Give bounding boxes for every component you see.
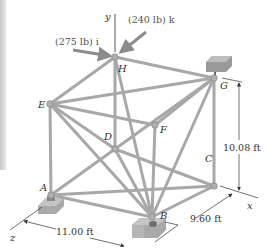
- z-axis: [10, 207, 42, 230]
- truss-members: [50, 57, 214, 217]
- node-E: [47, 101, 53, 107]
- node-C: [211, 183, 217, 189]
- height-dim-label: 10.08 ft: [223, 142, 261, 153]
- node-F: [152, 122, 158, 128]
- label-H: H: [117, 63, 127, 74]
- force-arrow-i: [73, 50, 110, 56]
- support-G: [206, 56, 232, 77]
- label-G: G: [220, 80, 228, 91]
- label-D: D: [103, 131, 112, 142]
- label-A: A: [39, 182, 47, 193]
- x-axis-label: x: [247, 200, 253, 211]
- node-G: [211, 75, 217, 81]
- node-B: [149, 214, 155, 220]
- force-arrow-k: [121, 32, 146, 52]
- force-label-i: (275 lb) i: [55, 36, 99, 47]
- width-dim-line-left: [24, 221, 56, 229]
- support-A: [38, 196, 64, 214]
- z-axis-label: z: [9, 232, 16, 243]
- depth-ext: [165, 222, 178, 225]
- width-dim-line-right: [90, 238, 124, 246]
- node-A: [48, 192, 54, 198]
- depth-dim-label: 9.60 ft: [190, 213, 222, 224]
- y-axis-label: y: [104, 11, 111, 22]
- label-F: F: [159, 124, 168, 135]
- label-C: C: [205, 153, 213, 164]
- node-H: [112, 54, 118, 60]
- node-D: [112, 146, 118, 152]
- width-dim-label: 11.00 ft: [56, 226, 94, 237]
- label-E: E: [37, 99, 46, 110]
- label-B: B: [159, 210, 167, 221]
- support-B: [132, 218, 166, 238]
- force-label-k: (240 lb) k: [128, 14, 175, 25]
- space-truss-diagram: y: [0, 0, 266, 250]
